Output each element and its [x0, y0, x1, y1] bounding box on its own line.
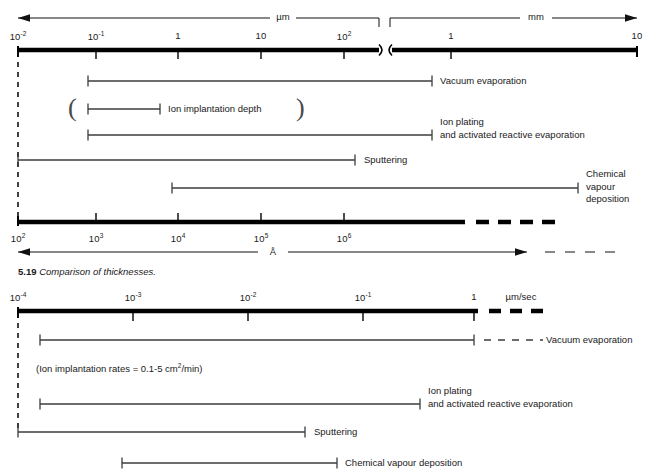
- bar-label-ion-plating-2-line2: and activated reactive evaporation: [428, 398, 573, 411]
- bar-label-ion-plating-1: Ion plating and activated reactive evapo…: [440, 116, 585, 141]
- thickness-top-axis-line: [18, 45, 637, 60]
- tick-label-rate-3: 10-2: [240, 291, 257, 303]
- tick-label-top-6: 1: [448, 30, 453, 41]
- bar-label-ion-implantation-depth: Ion implantation depth: [168, 103, 261, 116]
- tick-label-bottom-4: 105: [254, 232, 269, 244]
- note-prefix: (Ion implantation rates = 0.1-5 cm: [36, 363, 178, 374]
- tick-label-top-2: 10-1: [88, 30, 105, 42]
- bar-label-vacuum-evaporation-1: Vacuum evaporation: [440, 75, 526, 88]
- figure-caption-text: Comparison of thicknesses.: [39, 266, 156, 277]
- bar-chemical-vapour-deposition-1: [172, 183, 578, 194]
- figure-caption: 5.19 Comparison of thicknesses.: [18, 266, 156, 277]
- bar-label-vacuum-evaporation-2: Vacuum evaporation: [546, 334, 632, 347]
- bar-label-cvd-1-line3: deposition: [586, 193, 629, 206]
- bar-label-cvd-2: Chemical vapour deposition: [345, 457, 462, 470]
- bar-sputtering-1: [18, 155, 355, 166]
- unit-label-mm: mm: [528, 11, 544, 22]
- bar-label-sputtering-2: Sputtering: [314, 426, 357, 439]
- unit-label-um-per-sec: µm/sec: [506, 291, 537, 302]
- rate-axis-line: [18, 307, 546, 321]
- tick-label-top-5: 102: [337, 30, 352, 42]
- ion-implantation-rates-note: (Ion implantation rates = 0.1-5 cm2/min): [36, 362, 203, 374]
- bar-label-cvd-1-line2: vapour: [586, 181, 629, 194]
- tick-label-bottom-5: 106: [337, 232, 352, 244]
- tick-label-top-1: 10-2: [10, 30, 27, 42]
- angstrom-arrow: [18, 248, 615, 256]
- bar-ion-plating-1: [88, 130, 432, 141]
- tick-label-rate-2: 10-3: [125, 291, 142, 303]
- mm-unit-bracket: [390, 14, 637, 27]
- bar-chemical-vapour-deposition-2: [122, 458, 337, 469]
- bar-label-cvd-1: Chemical vapour deposition: [586, 168, 629, 206]
- paren-open-ion-implantation: (: [68, 95, 77, 121]
- bar-label-ion-plating-1-line2: and activated reactive evaporation: [440, 129, 585, 142]
- paren-close-ion-implantation: ): [296, 95, 305, 121]
- tick-label-top-3: 1: [175, 30, 180, 41]
- thickness-bottom-axis-line: [18, 213, 560, 226]
- bar-label-ion-plating-2: Ion plating and activated reactive evapo…: [428, 385, 573, 410]
- tick-label-top-7: 10: [632, 30, 643, 41]
- tick-label-bottom-2: 103: [89, 232, 104, 244]
- bar-label-ion-plating-1-line1: Ion plating: [440, 116, 585, 129]
- figure-caption-number: 5.19: [18, 266, 37, 277]
- bar-ion-implantation-depth: [88, 104, 160, 115]
- tick-label-bottom-3: 104: [171, 232, 186, 244]
- tick-label-rate-5: 1: [471, 291, 476, 302]
- unit-label-um: µm: [276, 11, 289, 22]
- unit-label-angstrom: Å: [266, 246, 280, 257]
- tick-label-top-4: 10: [256, 30, 267, 41]
- bar-ion-plating-2: [40, 399, 420, 410]
- tick-label-rate-1: 10-4: [10, 291, 27, 303]
- technical-figure: µm mm 10-2 10-1 1 10 102 1 10 Vacuum eva…: [0, 0, 656, 476]
- tick-label-bottom-1: 102: [11, 232, 26, 244]
- bar-sputtering-2: [18, 427, 305, 438]
- um-unit-bracket: [18, 14, 379, 27]
- bar-label-cvd-1-line1: Chemical: [586, 168, 629, 181]
- bar-label-sputtering-1: Sputtering: [364, 154, 407, 167]
- bar-label-ion-plating-2-line1: Ion plating: [428, 385, 573, 398]
- tick-label-rate-4: 10-1: [355, 291, 372, 303]
- note-suffix: /min): [181, 363, 202, 374]
- bar-vacuum-evaporation-2: [40, 335, 543, 346]
- bar-vacuum-evaporation-1: [88, 76, 432, 87]
